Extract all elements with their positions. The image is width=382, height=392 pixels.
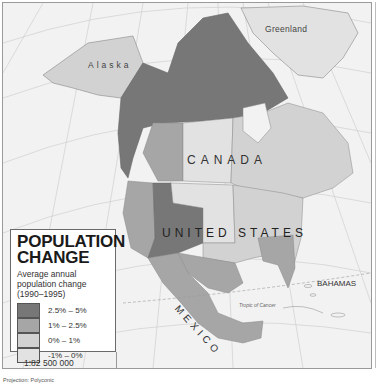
region-prairies	[183, 118, 233, 183]
label-tropic-of-cancer: Tropic of Cancer	[239, 302, 276, 308]
projection-note: Projection: Polyconic	[3, 377, 54, 383]
legend-row: 2.5% – 5%	[17, 303, 109, 318]
legend-title: POPULATION CHANGE	[17, 234, 109, 266]
legend: POPULATION CHANGE Average annual populat…	[10, 229, 116, 352]
label-alaska: Alaska	[88, 60, 132, 70]
label-greenland: Greenland	[265, 24, 307, 34]
page-rule	[375, 2, 376, 368]
region-us-southeast	[258, 235, 295, 288]
region-alberta	[143, 123, 183, 181]
map-scale: 1:82 500 000	[24, 358, 74, 368]
legend-swatch	[17, 303, 40, 318]
label-bahamas: BAHAMAS	[317, 279, 356, 288]
legend-swatch	[17, 333, 40, 348]
legend-swatch	[17, 318, 40, 333]
legend-subtitle: Average annual population change (1990–1…	[17, 269, 109, 299]
label-canada: CANADA	[187, 153, 267, 167]
legend-row: 0% – 1%	[17, 333, 109, 348]
region-us-westcoast	[123, 181, 155, 258]
label-united-states: UNITED STATES	[162, 226, 307, 240]
caribbean-islands	[283, 285, 345, 318]
legend-row: 1% – 2.5%	[17, 318, 109, 333]
